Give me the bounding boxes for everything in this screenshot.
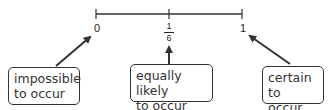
tick-label-one-sixth: 1 6 — [164, 22, 174, 43]
callout-line-2: occur — [268, 100, 318, 110]
callout-certain: certain to occur — [262, 66, 324, 104]
callout-line-1: impossible — [14, 71, 74, 86]
tick-label-one: 1 — [238, 23, 248, 34]
fraction-numerator: 1 — [164, 22, 174, 33]
number-line — [96, 9, 242, 19]
tick-label-zero: 0 — [92, 23, 102, 34]
arrow-to-zero — [56, 37, 90, 66]
callout-line-2: to occur — [136, 98, 207, 110]
callout-line-1: equally likely — [136, 68, 207, 98]
arrow-to-one — [250, 36, 290, 64]
callout-equally-likely: equally likely to occur — [130, 64, 213, 102]
fraction-denominator: 6 — [164, 33, 174, 43]
callout-line-1: certain to — [268, 70, 318, 100]
callout-impossible: impossible to occur — [8, 67, 80, 105]
callout-line-2: to occur — [14, 86, 74, 101]
